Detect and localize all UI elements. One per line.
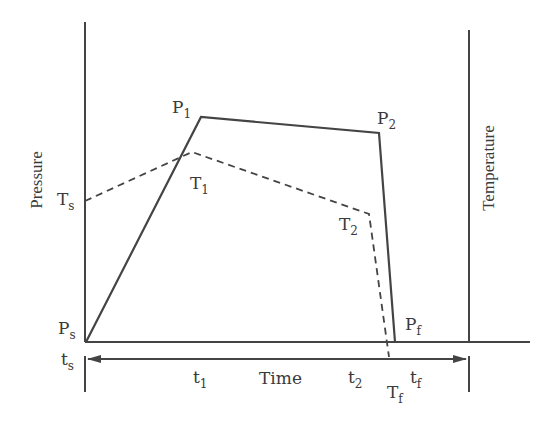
label-ts: Ts (57, 189, 75, 213)
label-pf: Pf (405, 314, 422, 338)
label-t2: T2 (339, 214, 358, 238)
pressure-axis-label: Pressure (27, 151, 46, 209)
label-time-t1: t1 (193, 367, 207, 391)
label-time-ts: ts (61, 349, 74, 373)
label-tf: Tf (387, 382, 404, 406)
label-p2: P2 (377, 108, 396, 132)
label-p1: P1 (172, 97, 191, 121)
label-time-axis: Time (259, 368, 302, 388)
label-time-tf: tf (410, 367, 423, 391)
temperature-axis-label: Temperature (479, 125, 498, 211)
pressure-temperature-diagram: Pressure Temperature Ps P1 P2 Pf Ts T1 T… (0, 0, 559, 423)
label-time-t2: t2 (348, 367, 362, 391)
label-t1: T1 (190, 173, 209, 197)
label-ps: Ps (58, 318, 76, 342)
